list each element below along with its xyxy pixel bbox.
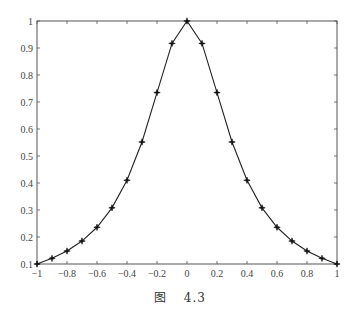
star-marker-icon [49,255,55,261]
plot-border [37,21,337,264]
series-line [37,21,337,264]
y-tick-label: 0.3 [21,205,34,216]
x-tick-label: −1 [32,268,43,279]
y-tick-label: 0.8 [21,70,34,81]
star-marker-icon [214,89,220,95]
star-marker-icon [34,261,40,267]
y-tick-label: 0.1 [21,259,34,270]
star-marker-icon [229,139,235,145]
star-marker-icon [154,89,160,95]
y-tick-label: 0.7 [21,97,34,108]
x-tick-label: 0.2 [211,268,224,279]
y-tick-label: 0.5 [21,151,34,162]
caption-number: 4.3 [184,291,206,305]
x-tick-label: 1 [335,268,340,279]
x-axis-tick-labels: −1−0.8−0.6−0.4−0.200.20.40.60.81 [32,268,340,279]
star-marker-icon [319,255,325,261]
star-marker-icon [244,177,250,183]
x-tick-label: 0.6 [271,268,284,279]
star-marker-icon [124,177,130,183]
figure-caption: 图 4.3 [0,288,360,305]
y-tick-label: 0.9 [21,43,34,54]
x-tick-label: −0.2 [148,268,166,279]
star-marker-icon [184,18,190,24]
y-tick-label: 0.6 [21,124,34,135]
star-marker-icon [64,248,70,254]
y-tick-label: 0.4 [21,178,34,189]
caption-prefix: 图 [154,291,167,305]
x-tick-label: −0.6 [88,268,106,279]
star-marker-icon [199,40,205,46]
y-tick-label: 0.2 [21,232,34,243]
star-marker-icon [304,248,310,254]
star-marker-icon [334,261,340,267]
x-tick-label: 0.4 [241,268,254,279]
y-axis-tick-labels: 0.10.20.30.40.50.60.70.80.91 [21,16,34,270]
x-tick-label: 0 [185,268,190,279]
line-chart: −1−0.8−0.6−0.4−0.200.20.40.60.81 0.10.20… [0,0,360,318]
x-tick-label: −0.4 [118,268,136,279]
data-series [34,18,340,267]
x-tick-label: −0.8 [58,268,76,279]
y-tick-label: 1 [28,16,33,27]
plot-frame [37,21,337,264]
axis-ticks [37,21,337,264]
star-marker-icon [139,139,145,145]
x-tick-label: 0.8 [301,268,314,279]
star-marker-icon [169,40,175,46]
